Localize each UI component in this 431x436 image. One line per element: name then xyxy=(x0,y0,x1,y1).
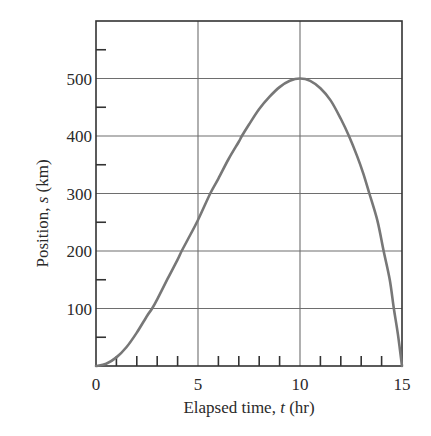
y-axis-title: Position, s (km) xyxy=(33,159,52,267)
position-time-chart: 051015 100200300400500 Elapsed time, t (… xyxy=(0,0,431,436)
y-tick-labels: 100200300400500 xyxy=(67,70,93,319)
x-axis-title: Elapsed time, t (hr) xyxy=(183,398,314,417)
grid-lines xyxy=(96,21,402,366)
position-curve xyxy=(96,79,402,367)
y-tick-label: 200 xyxy=(67,242,93,261)
y-tick-label: 400 xyxy=(67,127,93,146)
x-tick-labels: 051015 xyxy=(92,375,411,394)
y-tick-label: 500 xyxy=(67,70,93,89)
x-tick-label: 10 xyxy=(292,375,309,394)
y-tick-label: 300 xyxy=(67,185,93,204)
x-tick-label: 15 xyxy=(394,375,411,394)
x-tick-label: 5 xyxy=(194,375,203,394)
x-tick-label: 0 xyxy=(92,375,101,394)
y-tick-label: 100 xyxy=(67,300,93,319)
axis-ticks xyxy=(96,50,382,366)
